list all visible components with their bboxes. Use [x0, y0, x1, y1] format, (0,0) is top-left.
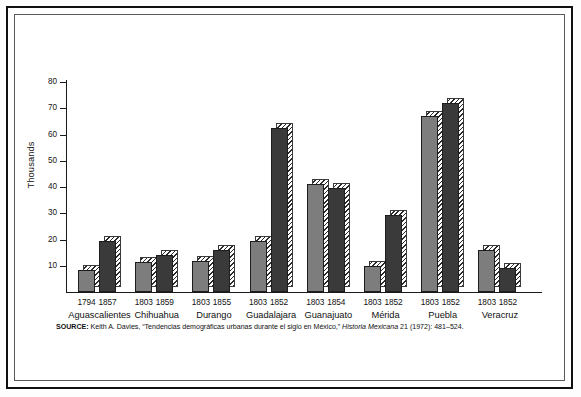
bar-puebla-1803	[421, 111, 443, 292]
bar-face	[364, 266, 381, 292]
year-label-1852: 1852	[495, 297, 520, 307]
y-axis-title: Thousands	[26, 105, 36, 225]
year-label-1855: 1855	[209, 297, 234, 307]
bar-face	[99, 241, 116, 292]
year-label-1859: 1859	[152, 297, 177, 307]
y-tick-label-80: 80	[31, 77, 57, 86]
y-tick-30	[60, 213, 67, 214]
y-tick-label-70: 70	[31, 103, 57, 112]
source-journal: Historia Mexicana	[342, 323, 398, 331]
bar-puebla-1852	[442, 98, 464, 292]
bar-face	[421, 116, 438, 292]
source-citation: SOURCE: Keith A. Davies, “Tendencias dem…	[56, 322, 526, 332]
x-axis-line	[66, 292, 542, 293]
y-tick-label-30: 30	[31, 208, 57, 217]
source-tail: 21 (1972): 481–524.	[398, 323, 463, 331]
y-tick-label-40: 40	[31, 182, 57, 191]
y-tick-60	[60, 135, 67, 136]
source-body: Keith A. Davies, “Tendencias demográfica…	[89, 323, 343, 331]
bar-aguascalientes-1857	[99, 236, 121, 292]
bar-mrida-1803	[364, 261, 386, 292]
bar-face	[213, 250, 230, 292]
bar-veracruz-1803	[478, 245, 500, 292]
y-tick-label-50: 50	[31, 156, 57, 165]
bar-guanajuato-1803	[307, 179, 329, 292]
bar-face	[250, 241, 267, 292]
bar-veracruz-1852	[499, 263, 521, 292]
y-tick-label-20: 20	[31, 235, 57, 244]
bar-durango-1855	[213, 245, 235, 292]
year-label-1852: 1852	[267, 297, 292, 307]
bar-face	[156, 255, 173, 292]
bar-face	[328, 188, 345, 292]
bar-face	[499, 268, 516, 292]
source-label: SOURCE:	[56, 323, 89, 331]
bar-chihuahua-1859	[156, 250, 178, 292]
bar-face	[442, 103, 459, 292]
bar-face	[78, 270, 95, 292]
bar-face	[307, 184, 324, 292]
year-label-1854: 1854	[324, 297, 349, 307]
year-label-1857: 1857	[95, 297, 120, 307]
bar-face	[271, 128, 288, 292]
bar-face	[135, 262, 152, 292]
bar-durango-1803	[192, 256, 214, 293]
bar-aguascalientes-1794	[78, 265, 100, 292]
y-tick-20	[60, 240, 67, 241]
y-tick-50	[60, 161, 67, 162]
bar-chihuahua-1803	[135, 257, 157, 292]
y-tick-label-10: 10	[31, 261, 57, 270]
city-label-veracruz: Veracruz	[455, 310, 545, 320]
y-tick-label-60: 60	[31, 130, 57, 139]
bar-guadalajara-1803	[250, 236, 272, 292]
y-tick-10	[60, 266, 67, 267]
y-tick-40	[60, 187, 67, 188]
bar-face	[385, 215, 402, 292]
bar-mrida-1852	[385, 210, 407, 292]
year-label-1852: 1852	[438, 297, 463, 307]
bar-face	[478, 250, 495, 292]
bar-guanajuato-1854	[328, 183, 350, 292]
figure-page: Thousands 1020304050607080 17941857Aguas…	[0, 0, 581, 397]
year-label-1852: 1852	[381, 297, 406, 307]
bar-face	[192, 261, 209, 293]
bar-guadalajara-1852	[271, 123, 293, 292]
y-tick-80	[60, 82, 67, 83]
y-tick-70	[60, 108, 67, 109]
